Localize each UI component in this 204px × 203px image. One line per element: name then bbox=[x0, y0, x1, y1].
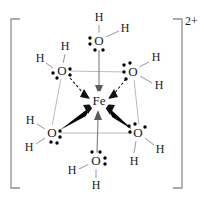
lone-pair-dot bbox=[122, 70, 125, 73]
dative-bond-upper-left-line bbox=[70, 78, 84, 94]
plane-edge-right bbox=[134, 79, 139, 126]
hydrogen-atom-label: H bbox=[36, 51, 45, 65]
central-iron-atom: Fe bbox=[89, 91, 109, 111]
lone-pair-dot bbox=[58, 135, 61, 138]
hydrogen-atom-label: H bbox=[152, 50, 161, 64]
oh-bond-bottom-left bbox=[79, 164, 89, 169]
ligand-water-top: O H H bbox=[88, 10, 129, 52]
axial-bond-bottom-arrowhead bbox=[94, 110, 102, 120]
oxygen-atom-label-upper-right: O bbox=[128, 64, 137, 79]
dative-bond-upper-left bbox=[70, 78, 90, 99]
ligand-water-lower-right: O H H bbox=[127, 122, 164, 167]
oxygen-atom-label-lower-right: O bbox=[133, 125, 142, 140]
oh-bond-lowleft-lower bbox=[36, 138, 45, 144]
lone-pair-dot bbox=[128, 130, 131, 133]
lone-pair-dot bbox=[93, 48, 96, 51]
hydrogen-atom-label: H bbox=[95, 10, 104, 24]
lone-pair-dot bbox=[55, 141, 58, 144]
lone-pair-dot bbox=[103, 156, 106, 159]
lone-pair-dot bbox=[122, 63, 125, 66]
hydrogen-atom-label: H bbox=[92, 178, 101, 192]
structure-canvas: Fe O H H O bbox=[0, 0, 204, 203]
oxygen-atom-label-top: O bbox=[94, 33, 103, 48]
oh-bond-top-right bbox=[106, 31, 119, 37]
lone-pair-dot bbox=[51, 71, 54, 74]
plane-edge-left bbox=[52, 78, 61, 126]
right-bracket bbox=[173, 19, 182, 188]
lone-pair-dot bbox=[127, 124, 130, 127]
oxygen-atom-label-bottom: O bbox=[91, 153, 100, 168]
hydrogen-atom-label: H bbox=[25, 140, 34, 154]
oxygen-atom-label-upper-left: O bbox=[57, 63, 66, 78]
lone-pair-dot bbox=[68, 73, 71, 76]
ligand-water-lower-left: O H H bbox=[25, 113, 62, 154]
axial-bond-bottom-line bbox=[97, 118, 98, 153]
oh-bond-upright-upper bbox=[139, 62, 149, 67]
lewis-structure-diagram: Fe O H H O bbox=[0, 0, 204, 203]
lone-pair-dot bbox=[124, 77, 127, 80]
oxygen-atom-label-lower-left: O bbox=[47, 125, 56, 140]
hydrogen-atom-label: H bbox=[26, 113, 35, 127]
iron-atom-label: Fe bbox=[93, 93, 106, 108]
hydrogen-atom-label: H bbox=[155, 78, 164, 92]
lone-pair-dot bbox=[58, 129, 61, 132]
left-bracket bbox=[11, 19, 20, 188]
lone-pair-dot bbox=[143, 125, 146, 128]
lone-pair-dot bbox=[101, 48, 104, 51]
hydrogen-atom-label: H bbox=[130, 154, 139, 168]
hydrogen-atom-label: H bbox=[121, 21, 130, 35]
lone-pair-dot bbox=[133, 122, 136, 125]
lone-pair-dot bbox=[98, 150, 101, 153]
lone-pair-dot bbox=[88, 42, 91, 45]
axial-bond-top bbox=[95, 50, 103, 95]
hydrogen-atom-label: H bbox=[68, 163, 77, 177]
lone-pair-dot bbox=[49, 140, 52, 143]
dative-bond-lower-left-wedge bbox=[60, 107, 90, 130]
hydrogen-atom-label: H bbox=[156, 142, 165, 156]
oh-bond-upright-lower bbox=[140, 76, 152, 83]
plane-edge-back bbox=[68, 71, 127, 72]
dative-bond-upper-right-line bbox=[114, 79, 126, 94]
lone-pair-dot bbox=[90, 150, 93, 153]
lone-pair-dot bbox=[68, 67, 71, 70]
lone-pair-dot bbox=[128, 61, 131, 64]
oh-bond-lowright-lower-left bbox=[134, 141, 136, 153]
dative-bond-lower-left bbox=[60, 104, 95, 130]
lone-pair-dot bbox=[55, 76, 58, 79]
hydrogen-atom-label: H bbox=[61, 39, 70, 53]
ligand-water-upper-left: O H H bbox=[36, 39, 72, 80]
oh-bond-lowleft-upper bbox=[37, 124, 45, 129]
lone-pair-dot bbox=[88, 36, 91, 39]
oh-bond-upleft-left bbox=[46, 63, 53, 68]
dative-bond-upper-right bbox=[108, 79, 126, 99]
ligand-water-upper-right: O H H bbox=[122, 50, 163, 92]
charge-label: 2+ bbox=[185, 14, 198, 28]
lone-pair-dot bbox=[103, 162, 106, 165]
oh-bond-lowright-right bbox=[145, 138, 154, 145]
ligand-water-bottom: O H H bbox=[68, 150, 107, 191]
axial-bond-bottom bbox=[94, 110, 102, 153]
